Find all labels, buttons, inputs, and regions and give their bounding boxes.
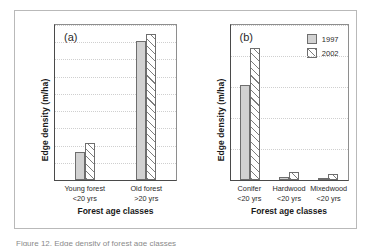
- bar-1997-hardwood: [279, 177, 289, 180]
- panel-label-b: (b): [240, 31, 253, 43]
- gridline: [231, 56, 348, 57]
- y-axis-tick-label: 0: [54, 176, 55, 182]
- y-axis-tick-mark: [54, 76, 55, 77]
- gridline: [55, 146, 176, 147]
- y-axis-title-a: Edge density (m/ha): [40, 45, 50, 195]
- legend-label-1997: 1997: [322, 35, 339, 44]
- y-axis-tick-mark: [54, 111, 55, 112]
- gridline: [55, 59, 176, 60]
- y-axis-tick-label: 0.0: [230, 176, 231, 182]
- chart-panel-a: Edge density (m/ha) (a) 0123456789 Young…: [14, 10, 186, 229]
- x-axis-tick-labels-b: Conifer<20 yrsHardwood<20 yrsMixedwood<2…: [230, 184, 349, 203]
- legend-item-1997: 1997: [307, 34, 339, 44]
- plot-area-b: (b) 19972002 0.00.51.01.52.02.5: [230, 24, 349, 181]
- x-axis-category-label: Young forest<20 yrs: [54, 184, 116, 203]
- bar-2002-conifer: [250, 48, 260, 180]
- y-axis-tick-mark: [230, 87, 231, 88]
- y-axis-tick-mark: [54, 180, 55, 181]
- y-axis-tick-mark: [230, 149, 231, 150]
- x-axis-tick-labels-a: Young forest<20 yrsOld forest>20 yrs: [54, 184, 177, 203]
- x-axis-tick-mark: [250, 180, 251, 181]
- y-axis-tick-mark: [54, 128, 55, 129]
- gridline: [55, 128, 176, 129]
- gridline: [55, 77, 176, 78]
- figure-caption-partial: Figure 12. Edge density of forest age cl…: [16, 239, 316, 246]
- bar-2002-mixedwood: [328, 174, 338, 180]
- y-axis-tick-mark: [230, 56, 231, 57]
- chart-panel-b: Edge density (m/ha) (b) 19972002 0.00.51…: [186, 10, 358, 229]
- x-axis-tick-mark: [289, 180, 290, 181]
- gridline: [55, 94, 176, 95]
- y-axis-tick-mark: [230, 118, 231, 119]
- y-axis-tick-mark: [54, 162, 55, 163]
- figure-panels: Edge density (m/ha) (a) 0123456789 Young…: [14, 10, 357, 229]
- x-axis-category-label: Conifer<20 yrs: [230, 184, 270, 203]
- x-axis-title-a: Forest age classes: [54, 206, 177, 216]
- bar-1997-old-forest: [136, 41, 146, 181]
- gridline: [55, 42, 176, 43]
- x-axis-category-label: Old forest>20 yrs: [116, 184, 178, 203]
- gridline: [55, 163, 176, 164]
- bar-2002-hardwood: [289, 172, 299, 180]
- y-axis-tick-mark: [230, 180, 231, 181]
- y-axis-tick-mark: [54, 25, 55, 26]
- figure-root: Edge density (m/ha) (a) 0123456789 Young…: [0, 0, 375, 246]
- bar-1997-conifer: [240, 85, 250, 180]
- gridline: [231, 25, 348, 26]
- x-axis-category-label: Hardwood<20 yrs: [269, 184, 309, 203]
- bar-1997-mixedwood: [318, 178, 328, 180]
- legend-swatch-1997: [307, 34, 317, 44]
- x-axis-category-label: Mixedwood<20 yrs: [309, 184, 349, 203]
- y-axis-tick-mark: [230, 25, 231, 26]
- y-axis-tick-mark: [54, 145, 55, 146]
- x-axis-tick-mark: [146, 180, 147, 181]
- gridline: [55, 111, 176, 112]
- y-axis-tick-mark: [54, 42, 55, 43]
- y-axis-tick-mark: [54, 59, 55, 60]
- bar-1997-young-forest: [75, 152, 85, 180]
- x-axis-title-b: Forest age classes: [230, 206, 349, 216]
- gridline: [55, 25, 176, 26]
- plot-area-a: (a) 0123456789: [54, 24, 177, 181]
- y-axis-tick-mark: [54, 93, 55, 94]
- y-axis-title-b: Edge density (m/ha): [216, 45, 226, 195]
- bar-2002-old-forest: [146, 34, 156, 180]
- legend: 19972002: [307, 34, 339, 58]
- x-axis-tick-mark: [85, 180, 86, 181]
- panel-label-a: (a): [64, 31, 77, 43]
- bar-2002-young-forest: [85, 143, 95, 180]
- x-axis-tick-mark: [328, 180, 329, 181]
